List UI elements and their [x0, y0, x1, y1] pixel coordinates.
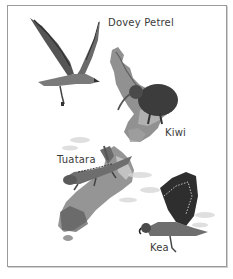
dovey-petrel-illustration — [30, 18, 100, 106]
kea-illustration — [140, 172, 209, 252]
label-dovey-petrel: Dovey Petrel — [108, 17, 174, 28]
label-kiwi: Kiwi — [165, 127, 186, 138]
label-tuatara: Tuatara — [57, 154, 96, 165]
label-kea: Kea — [150, 242, 169, 253]
new-zealand-illustration — [0, 0, 233, 279]
